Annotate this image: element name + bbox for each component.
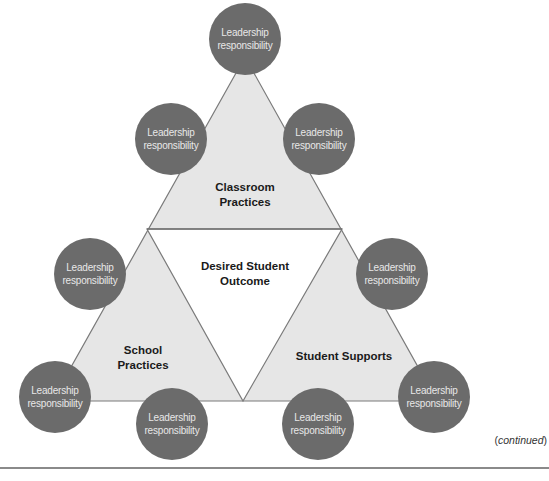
node-label-line: responsibility: [143, 139, 198, 152]
node-label-line: responsibility: [144, 424, 199, 437]
leadership-node-top: Leadership responsibility: [209, 3, 281, 75]
node-label-line: responsibility: [406, 397, 461, 410]
node-label-line: responsibility: [62, 274, 117, 287]
paren-close: ): [544, 434, 548, 446]
node-label-line: responsibility: [291, 139, 346, 152]
node-label-line: responsibility: [364, 274, 419, 287]
leadership-node-bottom-right-outer: Leadership responsibility: [398, 361, 470, 433]
leadership-node-top-left: Leadership responsibility: [135, 103, 207, 175]
section-label-line: School: [117, 343, 168, 358]
leadership-node-bottom-left-outer: Leadership responsibility: [19, 361, 91, 433]
node-label-line: responsibility: [290, 424, 345, 437]
section-school-practices: School Practices: [117, 343, 168, 373]
center-label-line: Desired Student: [201, 259, 289, 274]
node-label-line: Leadership: [295, 126, 342, 139]
leadership-node-bottom-left-inner: Leadership responsibility: [136, 388, 208, 460]
node-label-line: Leadership: [294, 411, 341, 424]
continued-note: (continued): [494, 434, 547, 446]
center-label-line: Outcome: [201, 274, 289, 289]
node-label-line: responsibility: [27, 397, 82, 410]
section-label-line: Classroom: [215, 180, 274, 195]
node-label-line: responsibility: [217, 39, 272, 52]
leadership-node-middle-left: Leadership responsibility: [54, 238, 126, 310]
node-label-line: Leadership: [147, 126, 194, 139]
node-label-line: Leadership: [31, 384, 78, 397]
continued-word: continued: [498, 434, 544, 446]
section-label-line: Practices: [117, 358, 168, 373]
section-student-supports: Student Supports: [296, 349, 392, 364]
page-rule-divider: [0, 467, 549, 469]
node-label-line: Leadership: [410, 384, 457, 397]
leadership-triangle-diagram: Classroom Practices Desired Student Outc…: [0, 0, 549, 481]
section-label-line: Student Supports: [296, 349, 392, 364]
leadership-node-middle-right: Leadership responsibility: [356, 238, 428, 310]
section-classroom-practices: Classroom Practices: [215, 180, 274, 210]
node-label-line: Leadership: [148, 411, 195, 424]
center-desired-outcome: Desired Student Outcome: [201, 259, 289, 289]
node-label-line: Leadership: [368, 261, 415, 274]
leadership-node-top-right: Leadership responsibility: [283, 103, 355, 175]
section-label-line: Practices: [215, 195, 274, 210]
node-label-line: Leadership: [66, 261, 113, 274]
node-label-line: Leadership: [221, 26, 268, 39]
leadership-node-bottom-right-inner: Leadership responsibility: [282, 388, 354, 460]
